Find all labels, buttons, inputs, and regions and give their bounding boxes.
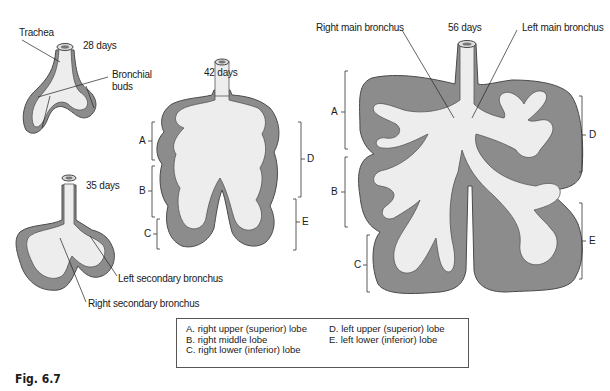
legend-column-left-lung: D. left upper (superior) lobe E. left lo… (329, 324, 445, 345)
legend-text: right lower (inferior) lobe (198, 344, 300, 355)
age-28-days-label: 28 days (83, 40, 117, 51)
left-secondary-bronchus-label: Left secondary bronchus (118, 273, 223, 284)
right-main-bronchus-label: Right main bronchus (316, 22, 404, 33)
left-main-bronchus-label: Left main bronchus (522, 22, 603, 33)
bracket-56-c-label: C (354, 259, 361, 270)
stage-42-days-illustration (148, 59, 305, 250)
bracket-56-d-label: D (589, 129, 596, 140)
bracket-42-a-label: A (139, 135, 146, 146)
bracket-42-c-label: C (144, 228, 151, 239)
bracket-56-a-label: A (331, 106, 338, 117)
legend-column-right-lung: A. right upper (superior) lobe B. right … (186, 324, 307, 356)
stage-28-days-illustration (22, 40, 108, 133)
bracket-42-e-label: E (302, 216, 309, 227)
legend-key: C. (186, 344, 196, 355)
bracket-42-b-label: B (139, 185, 146, 196)
bronchial-buds-label-line2: buds (112, 81, 133, 92)
legend-key: D. (329, 323, 339, 334)
legend-text: right middle lobe (198, 334, 268, 345)
legend-text: left lower (inferior) lobe (341, 334, 438, 345)
right-secondary-bronchus-label: Right secondary bronchus (88, 298, 199, 309)
legend-item-c: C. right lower (inferior) lobe (186, 345, 307, 356)
age-42-days-label: 42 days (204, 67, 238, 78)
legend-text: right upper (superior) lobe (198, 323, 307, 334)
legend-key: B. (186, 334, 195, 345)
age-35-days-label: 35 days (86, 180, 120, 191)
legend-key: E. (329, 334, 338, 345)
bracket-56-b-label: B (331, 186, 338, 197)
stage-56-days-illustration (341, 30, 586, 294)
legend-key: A. (186, 323, 195, 334)
stage-35-days-illustration (16, 175, 117, 302)
legend-text: left upper (superior) lobe (341, 323, 445, 334)
bronchial-buds-label-line1: Bronchial (112, 69, 152, 80)
bracket-42-d-label: D (307, 153, 314, 164)
trachea-label: Trachea (19, 27, 54, 38)
bracket-56-e-label: E (589, 235, 596, 246)
figure-label: Fig. 6.7 (15, 372, 61, 386)
lobe-legend: A. right upper (superior) lobe B. right … (176, 318, 469, 368)
legend-item-e: E. left lower (inferior) lobe (329, 335, 445, 346)
age-56-days-label: 56 days (448, 22, 482, 33)
